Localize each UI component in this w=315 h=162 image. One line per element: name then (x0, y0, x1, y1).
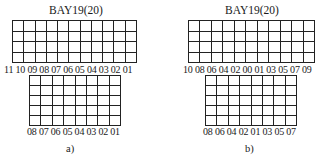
slot-cell (246, 42, 257, 53)
slot-cell (24, 21, 35, 32)
slot-cell (41, 76, 52, 86)
slot-cell (274, 116, 285, 126)
slot-cell (114, 52, 125, 63)
slot-cell (30, 106, 41, 116)
slot-cell (274, 96, 285, 106)
slot-cell (75, 96, 86, 106)
slot-cell (58, 52, 69, 63)
slot-cell (64, 116, 75, 126)
slot-cell (280, 52, 291, 63)
slot-cell (75, 116, 86, 126)
grid-row (206, 106, 297, 116)
slot-cell (262, 116, 273, 126)
slot-cell (52, 86, 63, 96)
slot-cell (86, 96, 97, 106)
slot-cell (303, 31, 314, 42)
slot-cell (251, 86, 262, 96)
slot-cell (200, 52, 211, 63)
slot-cell (217, 76, 228, 86)
slot-cell (41, 96, 52, 106)
slot-cell (262, 76, 273, 86)
slot-cell (64, 96, 75, 106)
column-labels-lower-a: 08 07 06 05 04 03 02 01 (27, 126, 120, 137)
slot-cell (98, 96, 109, 106)
slot-cell (257, 21, 268, 32)
slot-cell (98, 86, 109, 96)
slot-cell (109, 86, 120, 96)
slot-cell (274, 76, 285, 86)
slot-cell (46, 42, 57, 53)
slot-cell (228, 86, 239, 96)
slot-cell (69, 21, 80, 32)
slot-cell (86, 76, 97, 86)
slot-cell (285, 86, 296, 96)
grid-row (30, 106, 121, 116)
slot-cell (303, 42, 314, 53)
slot-cell (223, 52, 234, 63)
slot-cell (269, 21, 280, 32)
slot-cell (274, 86, 285, 96)
slot-cell (217, 116, 228, 126)
column-labels-upper-b: 10 08 06 04 02 00 01 03 05 07 09 (183, 64, 312, 75)
slot-cell (114, 31, 125, 42)
slot-cell (13, 21, 24, 32)
slot-cell (200, 31, 211, 42)
grid-row (206, 96, 297, 106)
slot-cell (240, 106, 251, 116)
grid-row (189, 21, 315, 32)
slot-cell (13, 52, 24, 63)
slot-cell (303, 21, 314, 32)
slot-cell (246, 31, 257, 42)
slot-cell (98, 116, 109, 126)
grid-row (206, 116, 297, 126)
grid-row (189, 52, 315, 63)
slot-cell (269, 52, 280, 63)
slot-cell (35, 21, 46, 32)
slot-cell (303, 52, 314, 63)
slot-cell (246, 52, 257, 63)
slot-cell (41, 106, 52, 116)
slot-cell (234, 21, 245, 32)
slot-cell (280, 31, 291, 42)
bay-title-b: BAY19(20) (222, 4, 282, 16)
grid-row (30, 86, 121, 96)
slot-cell (103, 52, 114, 63)
slot-cell (91, 31, 102, 42)
slot-cell (58, 31, 69, 42)
slot-cell (69, 31, 80, 42)
slot-cell (211, 52, 222, 63)
slot-cell (13, 31, 24, 42)
slot-cell (46, 21, 57, 32)
slot-cell (292, 31, 303, 42)
slot-cell (114, 21, 125, 32)
slot-cell (125, 42, 136, 53)
slot-cell (91, 21, 102, 32)
slot-cell (228, 76, 239, 86)
slot-cell (274, 106, 285, 116)
slot-cell (103, 42, 114, 53)
slot-cell (228, 106, 239, 116)
grid-row (30, 116, 121, 126)
slot-cell (35, 52, 46, 63)
slot-cell (217, 96, 228, 106)
slot-cell (234, 52, 245, 63)
slot-cell (30, 86, 41, 96)
slot-cell (262, 96, 273, 106)
slot-cell (46, 52, 57, 63)
slot-cell (75, 86, 86, 96)
slot-cell (285, 96, 296, 106)
slot-cell (86, 106, 97, 116)
grid-row (206, 76, 297, 86)
slot-cell (30, 76, 41, 86)
grid-row (13, 21, 137, 32)
slot-cell (46, 31, 57, 42)
grid-row (13, 52, 137, 63)
slot-cell (125, 21, 136, 32)
hold-grid-lower-a (29, 75, 121, 126)
slot-cell (206, 76, 217, 86)
slot-cell (269, 42, 280, 53)
slot-cell (80, 42, 91, 53)
slot-cell (35, 42, 46, 53)
slot-cell (98, 76, 109, 86)
slot-cell (75, 76, 86, 86)
